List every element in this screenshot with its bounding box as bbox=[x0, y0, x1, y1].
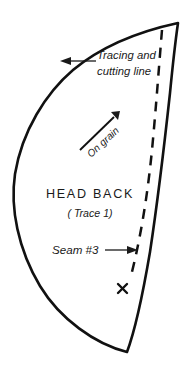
trace-count-label: ( Trace 1) bbox=[67, 207, 112, 219]
pattern-piece-page: Tracing and cutting line On grain HEAD B… bbox=[0, 0, 192, 376]
pattern-diagram: Tracing and cutting line On grain HEAD B… bbox=[0, 0, 192, 376]
tracing-line-label-line2: cutting line bbox=[97, 65, 151, 77]
arrow-left-icon bbox=[60, 57, 71, 65]
seam-label: Seam #3 bbox=[52, 243, 99, 256]
piece-name-label: HEAD BACK bbox=[46, 187, 134, 201]
tracing-line-label-line1: Tracing and bbox=[97, 49, 157, 61]
